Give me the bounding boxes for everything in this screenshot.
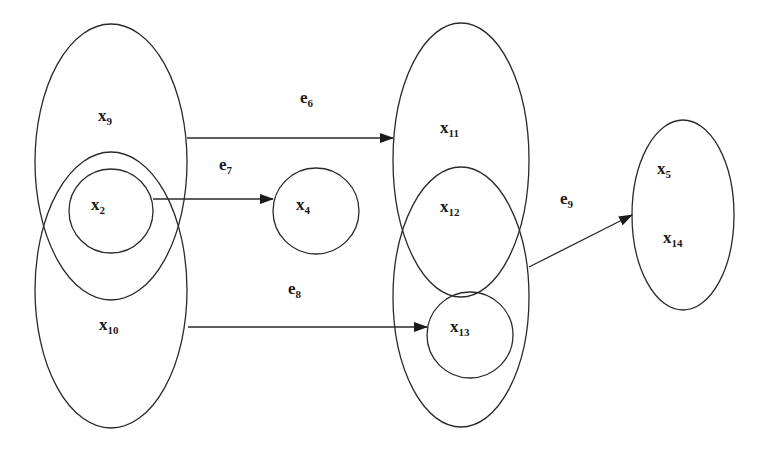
edge-label-e9: e9 <box>560 189 574 210</box>
node-shape-x2 <box>69 169 153 253</box>
hypergraph-diagram: x9 x10 x2 x4 x11 x12 x13 x5 x14 e6 e7 e8… <box>0 0 761 453</box>
node-label-x10: x10 <box>99 315 119 336</box>
node-label-x11: x11 <box>440 118 459 139</box>
edge-label-e6: e6 <box>300 88 314 109</box>
edge-label-e7: e7 <box>219 155 233 176</box>
node-label-x14: x14 <box>663 228 683 249</box>
node-shape-x13 <box>427 292 513 378</box>
node-label-x4: x4 <box>296 195 311 216</box>
node-label-x2: x2 <box>91 195 106 216</box>
node-label-x12: x12 <box>440 197 460 218</box>
node-label-x9: x9 <box>98 106 113 127</box>
edge-e9-arrow <box>529 215 632 267</box>
node-shape-x11 <box>393 23 529 297</box>
edge-label-e8: e8 <box>288 279 302 300</box>
node-shape-x5-x14 <box>632 120 734 310</box>
node-shape-x10 <box>35 152 187 428</box>
node-shape-x4 <box>273 168 359 254</box>
node-shape-x9 <box>35 24 187 300</box>
node-label-x13: x13 <box>450 317 470 338</box>
node-label-x5: x5 <box>657 159 672 180</box>
